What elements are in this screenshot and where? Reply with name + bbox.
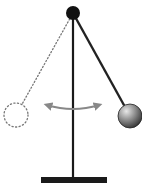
ghost-string [22,13,73,105]
pendulum-rod [73,13,124,106]
stand-base [41,177,107,183]
pendulum-svg [0,0,142,185]
pivot-point [66,6,80,20]
pendulum-bob [118,104,142,128]
pendulum-diagram [0,0,142,185]
ghost-bob [4,103,28,127]
